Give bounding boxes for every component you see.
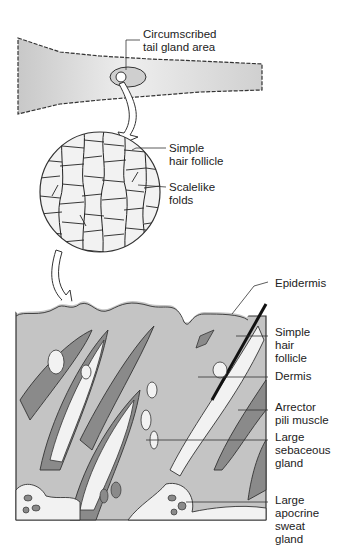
gland-opening	[116, 72, 126, 82]
label-epidermis: Epidermis	[275, 277, 326, 290]
label-scalelike-folds: Scalelike folds	[169, 181, 215, 207]
label-arrector-pili: Arrector pili muscle	[275, 401, 329, 427]
tail-gland-area	[110, 67, 146, 87]
label-apocrine-gland: Large apocrine sweat gland	[275, 494, 319, 546]
label-hair-follicle-bottom: Simple hair follicle	[275, 326, 310, 365]
magnified-surface-circle	[40, 130, 166, 260]
label-tail-gland: Circumscribed tail gland area	[143, 28, 217, 54]
tail-illustration	[18, 38, 262, 114]
skin-cross-section	[16, 282, 268, 520]
label-sebaceous-gland: Large sebaceous gland	[275, 431, 331, 470]
magnify-arrow-2	[52, 250, 72, 305]
label-dermis: Dermis	[275, 370, 311, 383]
label-hair-follicle-top: Simple hair follicle	[169, 142, 223, 168]
